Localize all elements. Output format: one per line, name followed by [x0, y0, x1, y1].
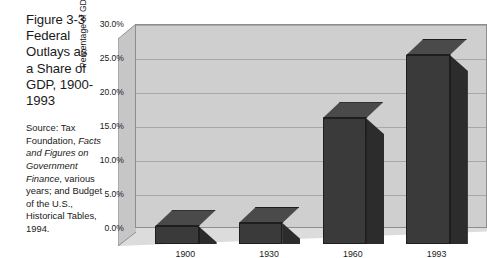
bar-front-face	[406, 55, 450, 244]
bar-side-face	[366, 118, 384, 244]
gridline	[136, 25, 486, 26]
x-axis-tick-label: 1930	[259, 249, 279, 258]
x-axis-tick-label: 1960	[343, 249, 363, 258]
x-axis-tick-label: 1900	[176, 249, 196, 258]
y-axis-tick-label: 30.0%	[100, 19, 124, 29]
bar-front-face	[239, 223, 283, 244]
bar-chart: 0.0%5.0%10.0%15.0%20.0%25.0%30.0% Percen…	[86, 8, 471, 258]
y-axis-tick-label: 20.0%	[100, 87, 124, 97]
bar-side-face	[450, 55, 468, 244]
bar-front-face	[155, 226, 199, 244]
bar-front-face	[323, 118, 367, 244]
y-axis-tick-label: 25.0%	[100, 53, 124, 63]
bar-1930	[239, 223, 283, 244]
y-axis-tick-label: 5.0%	[104, 189, 124, 199]
bar-1960	[323, 118, 367, 244]
y-axis-title: Percentage of GDP	[78, 0, 88, 68]
y-axis-tick-label: 10.0%	[100, 155, 124, 165]
bar-1993	[406, 55, 450, 244]
source-prefix: Source: Tax Foundation,	[26, 122, 78, 146]
y-axis-tick-label: 15.0%	[100, 121, 124, 131]
bar-1900	[155, 226, 199, 244]
x-axis-tick-label: 1993	[427, 249, 447, 258]
y-axis-tick-label: 0.0%	[104, 223, 124, 233]
